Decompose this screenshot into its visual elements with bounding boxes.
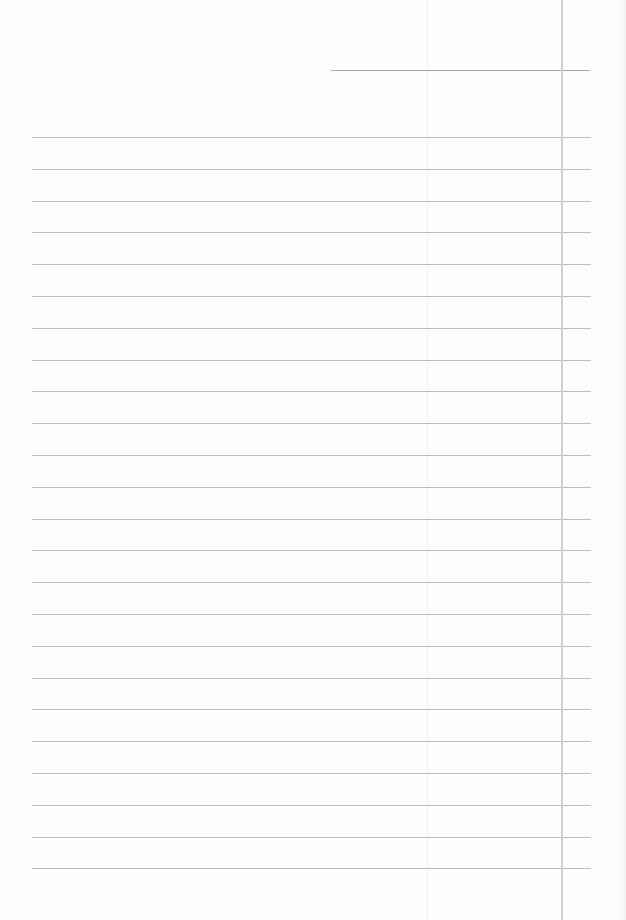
ruled-line <box>32 741 591 742</box>
ruled-line <box>32 868 591 869</box>
ruled-line <box>32 360 591 361</box>
ruled-line <box>32 169 591 170</box>
ruled-line <box>32 519 591 520</box>
ruled-line <box>32 201 591 202</box>
ruled-line <box>32 709 591 710</box>
ruled-line <box>32 296 591 297</box>
ruled-line <box>32 646 591 647</box>
ruled-line <box>32 264 591 265</box>
ruled-line <box>32 582 591 583</box>
page-edge-shadow <box>616 0 626 920</box>
ruled-line <box>32 423 591 424</box>
ruled-line <box>32 137 591 138</box>
ruled-line <box>32 391 591 392</box>
header-line <box>331 70 590 71</box>
lined-paper-page <box>0 0 626 920</box>
ruled-line <box>32 614 591 615</box>
ruled-line <box>32 232 591 233</box>
margin-line <box>561 0 563 920</box>
ruled-line <box>32 773 591 774</box>
ruled-line <box>32 678 591 679</box>
fold-line <box>427 0 428 920</box>
ruled-line <box>32 550 591 551</box>
ruled-line <box>32 837 591 838</box>
ruled-line <box>32 805 591 806</box>
ruled-line <box>32 455 591 456</box>
ruled-line <box>32 328 591 329</box>
ruled-line <box>32 487 591 488</box>
